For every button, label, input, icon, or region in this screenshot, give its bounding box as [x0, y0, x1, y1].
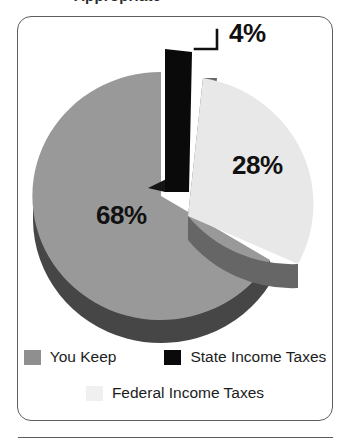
legend-label-you-keep: You Keep: [50, 348, 117, 366]
clipped-heading-strip: Appropriate: [0, 0, 351, 13]
legend-label-state-income-taxes: State Income Taxes: [190, 348, 326, 366]
bottom-divider: [18, 437, 333, 438]
legend-row: You Keep State Income Taxes: [17, 348, 333, 366]
legend-row: Federal Income Taxes: [17, 384, 333, 402]
leader-line-4-percent: [195, 30, 217, 49]
clipped-heading-text: Appropriate: [74, 0, 161, 4]
data-label-you-keep: 68%: [96, 200, 147, 231]
legend-item-federal-income-taxes[interactable]: Federal Income Taxes: [86, 384, 264, 402]
legend-swatch-you-keep: [24, 350, 41, 365]
pie-slice-state-top: [165, 49, 192, 192]
legend-label-federal-income-taxes: Federal Income Taxes: [112, 384, 264, 402]
legend-swatch-federal-income-taxes: [86, 386, 103, 401]
legend-item-you-keep[interactable]: You Keep: [24, 348, 117, 366]
data-label-state-income-taxes: 4%: [229, 18, 266, 49]
legend-item-state-income-taxes[interactable]: State Income Taxes: [164, 348, 326, 366]
chart-legend: You Keep State Income Taxes Federal Inco…: [17, 348, 333, 402]
pie-chart: [17, 16, 333, 346]
pie-chart-svg: [17, 16, 333, 346]
legend-swatch-state-income-taxes: [164, 350, 181, 365]
data-label-federal-income-taxes: 28%: [232, 150, 283, 181]
